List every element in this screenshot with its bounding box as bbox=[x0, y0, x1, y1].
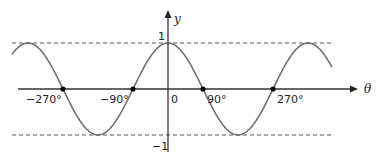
point-neg270 bbox=[60, 86, 65, 91]
tick-label-neg270: −270° bbox=[26, 93, 62, 106]
point-neg90 bbox=[130, 86, 135, 91]
x-axis-label: θ bbox=[364, 82, 372, 96]
point-90 bbox=[200, 86, 205, 91]
tick-label-90: 90° bbox=[207, 93, 227, 106]
cosine-graph: y θ −270° −90° 0 90° 270° 1 −1 bbox=[0, 0, 380, 159]
point-270 bbox=[270, 86, 275, 91]
y-tick-label-1: 1 bbox=[158, 30, 165, 43]
tick-label-270: 270° bbox=[277, 93, 304, 106]
y-axis-arrow-icon bbox=[165, 10, 172, 18]
tick-label-neg90: −90° bbox=[100, 93, 129, 106]
y-tick-label-neg1: −1 bbox=[152, 140, 168, 153]
x-axis-arrow-icon bbox=[350, 86, 358, 93]
y-axis-label: y bbox=[173, 12, 181, 26]
tick-label-0: 0 bbox=[171, 93, 178, 106]
